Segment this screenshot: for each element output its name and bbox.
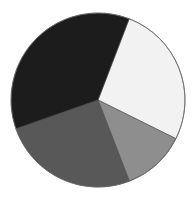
pie-chart-canvas: [0, 0, 194, 198]
pie-chart: [0, 0, 194, 198]
pie-slices: [11, 13, 185, 187]
